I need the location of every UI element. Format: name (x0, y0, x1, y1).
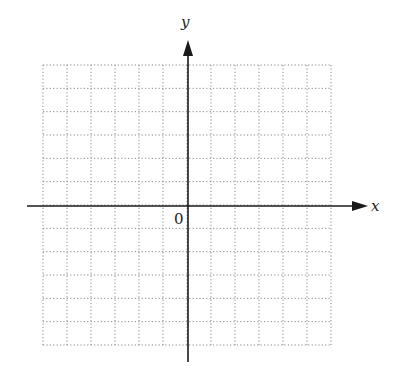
coordinate-plane: x y 0 (0, 0, 397, 384)
origin-label: 0 (174, 210, 184, 228)
y-axis-arrow-icon (183, 40, 193, 56)
x-axis (27, 201, 368, 211)
x-axis-label: x (371, 197, 380, 215)
x-axis-arrow-icon (352, 201, 368, 211)
y-axis (183, 40, 193, 362)
dotted-grid (43, 65, 331, 345)
y-axis-label: y (180, 13, 190, 31)
